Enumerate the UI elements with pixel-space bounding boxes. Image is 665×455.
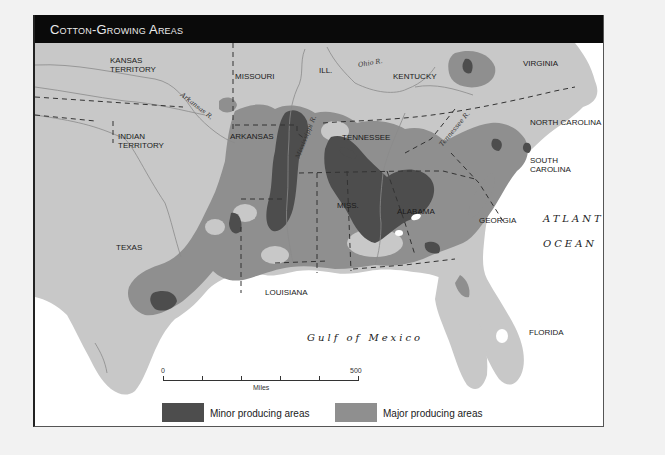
state-label-arkansas: ARKANSAS	[230, 132, 274, 141]
scale-start: 0	[161, 367, 165, 374]
title-bar: Cotton-Growing Areas	[35, 15, 603, 43]
state-label-indian-territory: INDIANTERRITORY	[118, 132, 164, 150]
map-figure: Cotton-Growing Areas	[33, 15, 604, 427]
scale-line	[163, 380, 358, 381]
state-label-alabama: ALABAMA	[397, 207, 435, 216]
label-ocean: OCEAN	[543, 238, 597, 249]
legend-label-major: Major producing areas	[383, 408, 483, 419]
scale-end: 500	[350, 367, 362, 374]
state-label-virginia: VIRGINIA	[523, 59, 558, 68]
state-label-louisiana: LOUISIANA	[265, 288, 308, 297]
state-label-kansas-territory: KANSASTERRITORY	[110, 56, 156, 74]
state-label-illinois: ILL.	[319, 66, 332, 75]
legend-swatch-minor	[162, 403, 204, 422]
state-label-missouri: MISSOURI	[235, 72, 275, 81]
legend-swatch-major	[335, 403, 377, 422]
state-label-texas: TEXAS	[116, 243, 142, 252]
scale-bar: 0 500 Miles	[163, 367, 363, 397]
label-gulf-of-mexico: Gulf of Mexico	[307, 332, 423, 343]
map-title: Cotton-Growing Areas	[50, 22, 183, 37]
state-label-kentucky: KENTUCKY	[393, 72, 437, 81]
state-label-north-carolina: NORTH CAROLINA	[530, 118, 601, 127]
state-label-tennessee: TENNESSEE	[342, 133, 390, 142]
state-label-georgia: GEORGIA	[479, 216, 516, 225]
state-label-south-carolina: SOUTHCAROLINA	[530, 156, 571, 174]
state-label-florida: FLORIDA	[529, 328, 564, 337]
legend-label-minor: Minor producing areas	[210, 408, 310, 419]
label-atlantic: ATLANTIC	[543, 213, 604, 224]
state-label-mississippi: MISS.	[337, 201, 359, 210]
scale-unit: Miles	[253, 384, 269, 391]
